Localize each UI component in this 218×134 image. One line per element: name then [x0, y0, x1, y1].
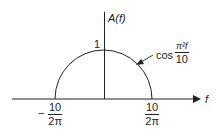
left-tick-sign: −	[38, 108, 44, 119]
left-tick-fraction: 10 2π	[48, 102, 62, 127]
left-tick-numerator: 10	[48, 102, 62, 115]
right-tick-numerator: 10	[145, 102, 159, 115]
right-tick-denominator: 2π	[145, 115, 159, 127]
peak-value-label: 1	[94, 39, 100, 50]
right-tick-fraction: 10 2π	[145, 102, 159, 127]
cosine-curve	[55, 50, 152, 99]
x-axis-label: f	[205, 94, 208, 105]
annotation-arrow-icon	[136, 59, 144, 65]
curve-label-cos: cos	[156, 50, 173, 61]
x-axis-arrow-icon	[193, 95, 201, 103]
left-tick-denominator: 2π	[48, 115, 62, 127]
y-axis-label: A(f)	[108, 13, 126, 24]
curve-label-fraction: π²f 10	[175, 42, 189, 65]
curve-label-denominator: 10	[176, 53, 188, 65]
annotation-leader	[141, 55, 153, 62]
curve-label-numerator: π²f	[175, 42, 189, 53]
